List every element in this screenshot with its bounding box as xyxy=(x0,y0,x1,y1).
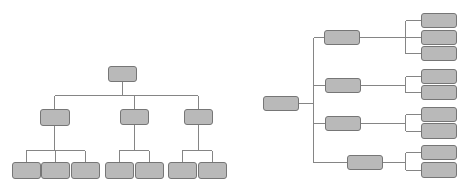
leaf-node-1-2 xyxy=(42,163,70,179)
leaf-node-2-1 xyxy=(106,163,134,179)
leaf-node-3-2 xyxy=(199,163,227,179)
leaf-node-1-3 xyxy=(422,47,457,61)
leaf-node-1-3 xyxy=(72,163,100,179)
branch-node-1 xyxy=(325,31,360,45)
diagram-canvas xyxy=(0,0,467,189)
level1-node-3 xyxy=(185,110,213,125)
branch-node-4 xyxy=(348,156,383,170)
leaf-node-3-2 xyxy=(422,124,457,139)
leaf-node-3-1 xyxy=(169,163,197,179)
tree-diagrams xyxy=(0,0,467,189)
branch-node-3 xyxy=(326,117,361,131)
horizontal-tree-chart xyxy=(264,14,457,178)
leaf-node-2-2 xyxy=(136,163,164,179)
leaf-node-1-2 xyxy=(422,31,457,45)
leaf-node-1-1 xyxy=(13,163,41,179)
connector-lines xyxy=(26,21,421,171)
leaf-node-3-1 xyxy=(422,108,457,122)
leaf-node-2-1 xyxy=(422,70,457,84)
leaf-node-4-2 xyxy=(422,163,457,178)
leaf-node-4-1 xyxy=(422,146,457,160)
level1-node-1 xyxy=(41,110,70,126)
branch-node-2 xyxy=(326,79,361,93)
root-node xyxy=(109,67,137,82)
root-node xyxy=(264,97,299,111)
level1-node-2 xyxy=(121,110,149,125)
leaf-node-1-1 xyxy=(422,14,457,28)
leaf-node-2-2 xyxy=(422,86,457,100)
